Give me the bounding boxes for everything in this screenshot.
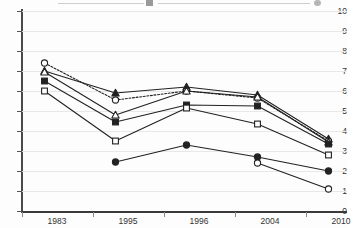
data-point-square-open <box>113 138 119 144</box>
series-line-circle-filled <box>116 145 329 171</box>
data-point-square-filled <box>255 103 261 109</box>
data-point-circle-open <box>112 97 118 103</box>
data-point-square-open <box>255 121 261 127</box>
data-point-circle-open <box>254 160 260 166</box>
data-point-square-open <box>326 152 332 158</box>
series-circle-open <box>254 160 331 192</box>
data-point-square-open <box>42 88 48 94</box>
data-point-square-filled <box>113 119 119 125</box>
data-point-circle-filled <box>254 154 260 160</box>
data-point-circle-filled <box>325 168 331 174</box>
data-point-circle-open <box>325 186 331 192</box>
data-point-square-filled <box>326 141 332 147</box>
data-point-circle-filled <box>183 142 189 148</box>
data-point-circle-filled <box>112 159 118 165</box>
data-point-square-filled <box>42 78 48 84</box>
series-line-circle-open <box>258 163 329 189</box>
data-point-circle-open <box>41 60 47 66</box>
series-circle-filled <box>112 142 331 174</box>
data-point-square-open <box>184 105 190 111</box>
